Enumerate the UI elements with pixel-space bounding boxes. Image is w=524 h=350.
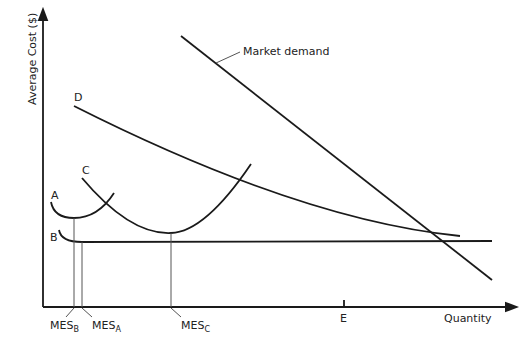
mes-b-leader — [66, 308, 74, 317]
curve-d — [74, 106, 460, 236]
y-axis-label: Average Cost ($) — [26, 13, 39, 105]
curve-a — [51, 193, 114, 218]
mes-c-leader — [171, 308, 181, 317]
x-axis-label: Quantity — [444, 312, 492, 325]
mes-b-label: MESB — [50, 319, 79, 334]
cost-curves-diagram: Average Cost ($) Market demand D C A B M… — [0, 0, 524, 350]
mes-a-leader — [82, 308, 92, 317]
curve-c-label: C — [82, 164, 90, 177]
curve-d-label: D — [74, 91, 82, 104]
market-demand-label: Market demand — [243, 45, 329, 58]
mes-a-label: MESA — [92, 319, 121, 334]
market-demand-leader — [216, 52, 240, 63]
curve-b-label: B — [50, 231, 58, 244]
market-demand-line — [181, 36, 492, 280]
curve-a-label: A — [51, 189, 59, 202]
e-label: E — [340, 312, 347, 325]
mes-c-label: MESC — [181, 319, 210, 334]
